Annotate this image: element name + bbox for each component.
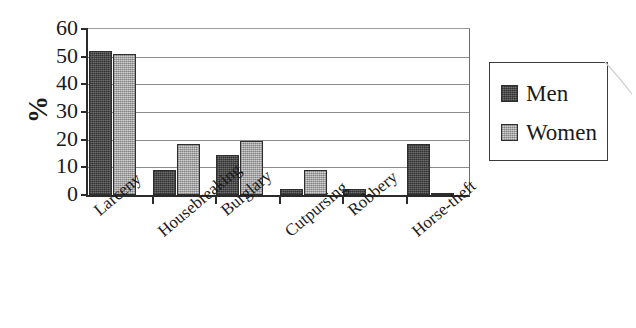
y-tick-mark [81,83,88,85]
bar-housebreaking-men [153,170,176,195]
y-tick-label: 0 [38,183,78,205]
bar-horse-theft-men [407,144,430,195]
bar-chart: % 6050403020100 LarcenyHousebreakingBurg… [0,0,636,328]
legend-label-men: Men [526,82,568,105]
x-axis-tick-labels: LarcenyHousebreakingBurglaryCutpursingRo… [86,199,470,328]
y-tick-label: 60 [38,17,78,39]
bar-larceny-men [89,51,112,195]
y-tick-mark [81,139,88,141]
legend-item-men[interactable]: Men [501,80,568,106]
gridline [88,84,469,85]
legend: Men Women [489,62,608,161]
y-tick-mark [81,194,88,196]
bar-housebreaking-women [177,144,200,195]
scan-artifact [604,60,634,100]
y-tick-label: 20 [38,128,78,150]
y-tick-mark [81,111,88,113]
y-tick-label: 30 [38,100,78,122]
gridline [88,112,469,113]
legend-label-women: Women [526,121,597,144]
y-axis-tick-labels: 6050403020100 [38,0,78,328]
y-tick-mark [81,28,88,30]
y-tick-label: 10 [38,155,78,177]
y-tick-label: 50 [38,45,78,67]
gridline [88,57,469,58]
women-swatch-icon [501,124,518,141]
y-tick-mark [81,56,88,58]
y-tick-label: 40 [38,72,78,94]
gridline [88,140,469,141]
bar-cutpursing-men [280,189,303,195]
legend-item-women[interactable]: Women [501,119,597,145]
y-tick-mark [81,166,88,168]
men-swatch-icon [501,85,518,102]
plot-area [86,28,470,197]
